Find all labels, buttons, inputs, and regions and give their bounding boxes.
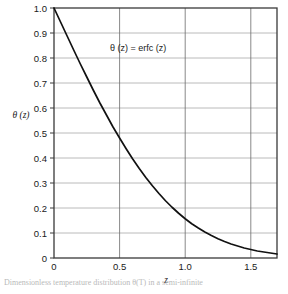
- erfc-plot: 1.0 0.9 0.8 0.7 0.6 0.5 0.4 0.3 0.2 0.1 …: [0, 0, 288, 294]
- ytick-label-0.3: 0.3: [34, 178, 47, 189]
- xtick-label-1.5: 1.5: [244, 261, 257, 272]
- ytick-label-0.5: 0.5: [34, 128, 47, 139]
- ytick-label-1.0: 1.0: [34, 3, 47, 14]
- chart-figure: 1.0 0.9 0.8 0.7 0.6 0.5 0.4 0.3 0.2 0.1 …: [0, 0, 288, 294]
- ytick-label-0.7: 0.7: [34, 78, 47, 89]
- ytick-label-0.8: 0.8: [34, 53, 47, 64]
- x-tick-labels: 0 0.5 1.0 1.5: [51, 261, 257, 272]
- curve-annotation: θ (z) = erfc (z): [110, 43, 166, 53]
- xtick-label-0.5: 0.5: [113, 261, 126, 272]
- ytick-label-0.4: 0.4: [34, 153, 47, 164]
- y-tick-labels: 1.0 0.9 0.8 0.7 0.6 0.5 0.4 0.3 0.2 0.1 …: [34, 3, 47, 264]
- ytick-label-0: 0: [42, 253, 47, 264]
- y-axis-title: θ (z): [12, 110, 29, 121]
- ytick-label-0.2: 0.2: [34, 203, 47, 214]
- xtick-label-0: 0: [51, 261, 56, 272]
- ytick-label-0.9: 0.9: [34, 28, 47, 39]
- ytick-label-0.1: 0.1: [34, 228, 47, 239]
- figure-caption: Dimensionless temperature distribution θ…: [4, 278, 286, 288]
- ytick-label-0.6: 0.6: [34, 103, 47, 114]
- xtick-label-1.0: 1.0: [179, 261, 192, 272]
